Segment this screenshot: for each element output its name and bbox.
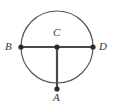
point-label-d: D [99, 41, 107, 52]
point-label-c: C [53, 27, 60, 38]
point-marker-b [18, 44, 23, 49]
circle-geometry-figure: B C D A [0, 0, 118, 106]
point-marker-c [54, 44, 59, 49]
point-label-b: B [5, 41, 12, 52]
point-marker-d [90, 44, 95, 49]
point-label-a: A [53, 92, 60, 103]
